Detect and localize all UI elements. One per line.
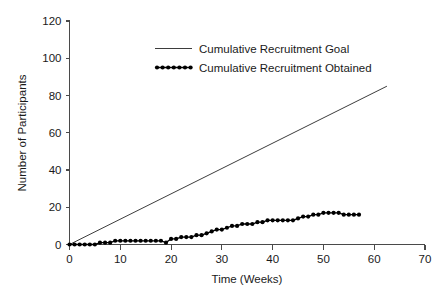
obtained-data-point — [347, 213, 351, 217]
legend-marker-dot — [155, 65, 159, 69]
obtained-data-point — [271, 218, 275, 222]
obtained-data-point — [199, 233, 203, 237]
goal-line-path — [70, 86, 387, 244]
obtained-data-point — [296, 216, 300, 220]
recruitment-chart: 020406080100120 010203040506070 Time (We… — [0, 0, 446, 294]
legend-marker-dot — [183, 65, 187, 69]
obtained-data-point — [154, 239, 158, 243]
series-cumulative-recruitment-obtained — [67, 211, 361, 247]
y-tick-label-60: 60 — [49, 127, 62, 139]
obtained-data-point — [286, 218, 290, 222]
obtained-data-point — [118, 239, 122, 243]
x-axis-title: Time (Weeks) — [212, 273, 283, 285]
obtained-data-point — [311, 213, 315, 217]
obtained-data-point — [103, 241, 107, 245]
x-tick-label-70: 70 — [419, 253, 432, 265]
obtained-marker-group — [67, 211, 361, 247]
obtained-data-point — [301, 214, 305, 218]
obtained-data-point — [169, 237, 173, 241]
obtained-data-point — [281, 218, 285, 222]
legend-marker-dot — [189, 65, 193, 69]
obtained-data-point — [260, 220, 264, 224]
x-tick-label-60: 60 — [368, 253, 381, 265]
legend-label-obtained: Cumulative Recruitment Obtained — [199, 62, 372, 74]
obtained-data-point — [342, 213, 346, 217]
obtained-data-point — [108, 241, 112, 245]
y-tick-label-100: 100 — [42, 52, 61, 64]
legend-marker-sample-obtained — [155, 65, 193, 69]
obtained-data-point — [113, 239, 117, 243]
obtained-data-point — [245, 222, 249, 226]
y-tick-label-0: 0 — [55, 239, 61, 251]
obtained-data-point — [189, 235, 193, 239]
obtained-data-point — [230, 224, 234, 228]
obtained-data-point — [265, 218, 269, 222]
y-axis-title: Number of Participants — [16, 74, 28, 191]
obtained-line-path — [70, 213, 359, 245]
x-tick-label-50: 50 — [317, 253, 330, 265]
obtained-data-point — [210, 229, 214, 233]
obtained-data-point — [235, 224, 239, 228]
chart-axes — [70, 21, 426, 245]
obtained-data-point — [88, 242, 92, 246]
legend-label-goal: Cumulative Recruitment Goal — [199, 43, 349, 55]
x-tick-label-10: 10 — [114, 253, 127, 265]
obtained-data-point — [331, 211, 335, 215]
obtained-data-point — [357, 213, 361, 217]
legend-item-goal: Cumulative Recruitment Goal — [155, 43, 349, 55]
obtained-data-point — [133, 239, 137, 243]
obtained-data-point — [93, 242, 97, 246]
obtained-data-point — [72, 242, 76, 246]
obtained-data-point — [128, 239, 132, 243]
obtained-data-point — [326, 211, 330, 215]
obtained-data-point — [215, 228, 219, 232]
obtained-data-point — [179, 235, 183, 239]
obtained-data-point — [164, 241, 168, 245]
y-tick-label-20: 20 — [49, 201, 62, 213]
obtained-data-point — [194, 233, 198, 237]
series-cumulative-recruitment-goal — [70, 86, 387, 244]
y-tick-label-40: 40 — [49, 164, 62, 176]
x-tick-label-0: 0 — [66, 253, 72, 265]
legend-marker-dot — [166, 65, 170, 69]
obtained-data-point — [291, 218, 295, 222]
obtained-data-point — [67, 242, 71, 246]
legend-marker-dot — [177, 65, 181, 69]
obtained-data-point — [220, 228, 224, 232]
x-tick-label-20: 20 — [165, 253, 178, 265]
obtained-data-point — [240, 222, 244, 226]
obtained-data-point — [352, 213, 356, 217]
x-tick-label-30: 30 — [215, 253, 228, 265]
x-tick-label-40: 40 — [266, 253, 279, 265]
x-axis-ticks: 010203040506070 — [66, 245, 431, 265]
obtained-data-point — [149, 239, 153, 243]
obtained-data-point — [316, 213, 320, 217]
obtained-data-point — [123, 239, 127, 243]
chart-plot-area: 020406080100120 010203040506070 Time (We… — [0, 0, 446, 294]
y-tick-label-120: 120 — [42, 15, 61, 27]
chart-legend: Cumulative Recruitment Goal Cumulative R… — [155, 43, 372, 74]
y-axis-ticks: 020406080100120 — [42, 15, 69, 251]
obtained-data-point — [321, 211, 325, 215]
obtained-data-point — [306, 214, 310, 218]
obtained-data-point — [250, 222, 254, 226]
obtained-data-point — [184, 235, 188, 239]
obtained-data-point — [159, 239, 163, 243]
obtained-data-point — [225, 226, 229, 230]
obtained-data-point — [144, 239, 148, 243]
legend-item-obtained: Cumulative Recruitment Obtained — [155, 62, 372, 74]
obtained-data-point — [83, 242, 87, 246]
obtained-data-point — [255, 220, 259, 224]
y-tick-label-80: 80 — [49, 90, 62, 102]
legend-marker-dot — [172, 65, 176, 69]
obtained-data-point — [174, 237, 178, 241]
obtained-data-point — [276, 218, 280, 222]
obtained-data-point — [78, 242, 82, 246]
obtained-data-point — [205, 231, 209, 235]
obtained-data-point — [98, 241, 102, 245]
obtained-data-point — [337, 211, 341, 215]
obtained-data-point — [139, 239, 143, 243]
legend-marker-dot — [161, 65, 165, 69]
